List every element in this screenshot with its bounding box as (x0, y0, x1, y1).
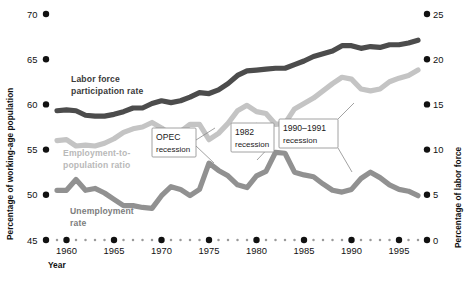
x-axis-minor-dot (341, 239, 344, 242)
x-axis-major-dot (111, 237, 117, 243)
annotation-1982-recession: 1982 recession (231, 123, 274, 160)
right-tick-label-10: 10 (433, 144, 443, 155)
x-axis-minor-dot (274, 239, 277, 242)
x-axis-minor-dot (236, 239, 239, 242)
x-axis-minor-dot (56, 239, 59, 242)
x-axis-minor-dot (84, 239, 87, 242)
left-tick-dot-70 (43, 11, 49, 17)
left-tick-dot-55 (43, 146, 49, 152)
x-axis-minor-dot (322, 239, 325, 242)
right-tick-dot-5 (424, 192, 430, 198)
x-axis-minor-dot (198, 239, 201, 242)
left-tick-label-60: 60 (27, 99, 37, 110)
left-tick-label-65: 65 (27, 54, 37, 65)
left-tick-label-55: 55 (27, 144, 37, 155)
x-axis-minor-dot (132, 239, 135, 242)
left-tick-dot-65 (43, 56, 49, 62)
right-tick-label-0: 0 (433, 235, 438, 246)
x-axis-minor-dot (122, 239, 125, 242)
left-tick-label-50: 50 (27, 189, 37, 200)
x-axis-minor-dot (284, 239, 287, 242)
annotation-1982-line2: recession (235, 140, 269, 149)
x-axis-tick-label-1960: 1960 (56, 245, 77, 256)
x-axis-minor-dot (151, 239, 154, 242)
x-axis-minor-dot (379, 239, 382, 242)
chart-figure: Percentage of working-age population 70 … (0, 0, 470, 281)
series-label-lfpr-line2: participation rate (71, 86, 143, 96)
x-axis-minor-dot (75, 239, 78, 242)
x-axis-title: Year (48, 260, 66, 270)
x-axis-major-dot (253, 237, 259, 243)
right-tick-label-20: 20 (433, 54, 443, 65)
x-axis-tick-label-1980: 1980 (246, 245, 267, 256)
series-label-ur-line2: rate (70, 218, 86, 228)
x-axis-minor-dot (407, 239, 410, 242)
x-axis-major-dot (396, 237, 402, 243)
x-axis-tick-label-1990: 1990 (341, 245, 362, 256)
right-tick-dot-20 (424, 56, 430, 62)
left-tick-label-70: 70 (27, 9, 37, 20)
x-axis-major-dot (206, 237, 212, 243)
series-label-ur-line1: Unemployment (70, 206, 134, 216)
x-axis-tick-label-1985: 1985 (294, 245, 315, 256)
x-axis-minor-dot (227, 239, 230, 242)
x-axis-minor-dot (360, 239, 363, 242)
left-tick-label-45: 45 (27, 235, 37, 246)
annotation-1982-line1: 1982 (235, 127, 254, 137)
series-label-lfpr-line1: Labor force (71, 74, 120, 84)
left-axis: Percentage of working-age population 70 … (6, 9, 49, 246)
x-axis-minor-dot (293, 239, 296, 242)
left-tick-dot-45 (43, 237, 49, 243)
left-tick-dot-60 (43, 101, 49, 107)
x-axis-tick-label-1995: 1995 (389, 245, 410, 256)
x-axis-major-dot (301, 237, 307, 243)
x-axis-minor-dot (103, 239, 106, 242)
x-axis-tick-labels: 19601965197019751980198519901995 (56, 245, 409, 256)
x-axis-minor-dot (189, 239, 192, 242)
x-axis-tick-label-1970: 1970 (151, 245, 172, 256)
x-axis-minor-dot (246, 239, 249, 242)
annotation-opec-line1: OPEC (156, 132, 180, 142)
x-axis-minor-dot (312, 239, 315, 242)
x-axis-tick-label-1965: 1965 (104, 245, 125, 256)
x-axis-minor-dot (217, 239, 220, 242)
x-axis-minor-dot (94, 239, 97, 242)
annotation-1990-1991-line2: recession (283, 136, 317, 145)
series-label-unemployment-rate: Unemployment rate (70, 206, 134, 228)
right-tick-dot-15 (424, 101, 430, 107)
x-axis-minor-dot (388, 239, 391, 242)
series-label-epr-line2: population ratio (63, 160, 130, 170)
x-axis-dot-row (56, 237, 420, 243)
series-label-labor-force-participation-rate: Labor force participation rate (71, 74, 143, 96)
right-tick-dot-10 (424, 146, 430, 152)
series-label-epr-line1: Employment-to- (63, 148, 131, 158)
right-tick-dot-25 (424, 11, 430, 17)
annotation-1990-1991-line1: 1990–1991 (283, 123, 326, 133)
x-axis-minor-dot (331, 239, 334, 242)
right-axis-title: Percentage of labor force (454, 146, 463, 248)
x-axis-minor-dot (265, 239, 268, 242)
x-axis-major-dot (158, 237, 164, 243)
x-axis-tick-label-1975: 1975 (199, 245, 220, 256)
x-axis-minor-dot (369, 239, 372, 242)
x-axis-major-dot (63, 237, 69, 243)
left-axis-title: Percentage of working-age population (6, 88, 15, 240)
x-axis-major-dot (348, 237, 354, 243)
x-axis-minor-dot (141, 239, 144, 242)
right-tick-label-5: 5 (433, 189, 438, 200)
right-axis: Percentage of labor force 25 20 15 10 5 … (424, 9, 463, 249)
right-tick-label-25: 25 (433, 9, 443, 20)
annotation-opec-line2: recession (156, 145, 190, 154)
series-label-employment-to-population-ratio: Employment-to- population ratio (63, 148, 131, 170)
x-axis-minor-dot (170, 239, 173, 242)
x-axis-minor-dot (417, 239, 420, 242)
left-tick-dot-50 (43, 192, 49, 198)
x-axis-minor-dot (179, 239, 182, 242)
right-tick-label-15: 15 (433, 99, 443, 110)
right-tick-dot-0 (424, 237, 430, 243)
